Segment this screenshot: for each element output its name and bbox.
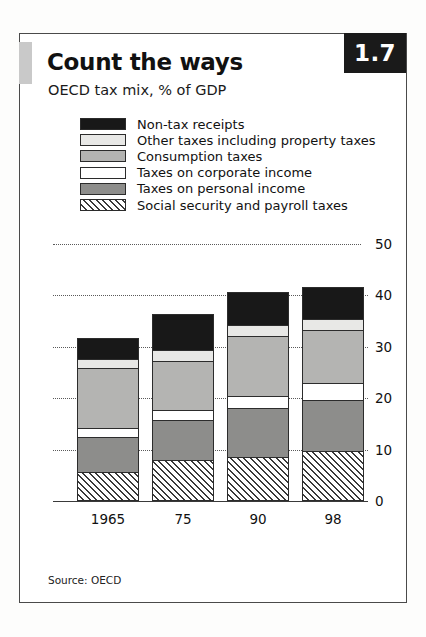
- legend-item-personal-income: Taxes on personal income: [80, 181, 400, 197]
- plot-area: [53, 244, 353, 501]
- chart-subtitle: OECD tax mix, % of GDP: [48, 82, 226, 98]
- legend-swatch-icon: [80, 199, 126, 211]
- left-edge-tab: [19, 42, 32, 84]
- bar-segment: [302, 383, 364, 400]
- legend-swatch-icon: [80, 150, 126, 162]
- bar-segment: [152, 314, 214, 350]
- legend-swatch-icon: [80, 183, 126, 195]
- bar-segment: [77, 472, 139, 501]
- source-note: Source: OECD: [48, 574, 121, 586]
- figure-frame: 1.7 Count the ways OECD tax mix, % of GD…: [19, 33, 407, 603]
- page-title: Count the ways: [47, 49, 243, 75]
- bar-segment: [227, 325, 289, 336]
- figure-page: 1.7 Count the ways OECD tax mix, % of GD…: [0, 0, 426, 637]
- y-tick-label: 10: [375, 442, 392, 458]
- bar-segment: [302, 451, 364, 501]
- bar-75[interactable]: [152, 314, 214, 501]
- x-tick-label: 98: [298, 511, 368, 527]
- bar-segment: [227, 336, 289, 396]
- x-tick-label: 1965: [73, 511, 143, 527]
- legend-item-non-tax-receipts: Non-tax receipts: [80, 116, 400, 132]
- legend-item-label: Other taxes including property taxes: [137, 133, 376, 148]
- bar-segment: [227, 292, 289, 324]
- bar-segment: [77, 437, 139, 472]
- bar-90[interactable]: [227, 292, 289, 501]
- legend-item-corporate-income: Taxes on corporate income: [80, 165, 400, 181]
- legend-swatch-icon: [80, 134, 126, 146]
- chart-legend: Non-tax receipts Other taxes including p…: [80, 116, 400, 213]
- bar-segment: [302, 330, 364, 383]
- bar-segment: [152, 361, 214, 410]
- stacked-bar-chart: 01020304050 1965759098: [20, 229, 405, 574]
- bar-segment: [302, 319, 364, 330]
- legend-swatch-icon: [80, 167, 126, 179]
- legend-swatch-icon: [80, 118, 126, 130]
- bar-98[interactable]: [302, 287, 364, 501]
- bar-segment: [227, 396, 289, 408]
- legend-item-consumption-taxes: Consumption taxes: [80, 148, 400, 164]
- legend-item-social-security: Social security and payroll taxes: [80, 197, 400, 213]
- bar-segment: [77, 428, 139, 437]
- bar-segment: [152, 350, 214, 360]
- y-tick-label: 0: [375, 493, 384, 509]
- bar-segment: [227, 457, 289, 501]
- y-tick-label: 50: [375, 236, 392, 252]
- x-axis-line: [53, 501, 368, 502]
- y-tick-label: 20: [375, 390, 392, 406]
- bar-segment: [77, 359, 139, 368]
- x-tick-label: 75: [148, 511, 218, 527]
- bar-1965[interactable]: [77, 338, 139, 501]
- bar-segment: [152, 460, 214, 501]
- y-tick-label: 40: [375, 287, 392, 303]
- bar-segment: [152, 420, 214, 461]
- bar-segment: [77, 338, 139, 359]
- legend-item-label: Non-tax receipts: [137, 117, 244, 132]
- x-tick-label: 90: [223, 511, 293, 527]
- legend-item-label: Consumption taxes: [137, 149, 262, 164]
- legend-item-label: Taxes on personal income: [137, 181, 305, 196]
- bar-segment: [152, 410, 214, 420]
- legend-item-label: Social security and payroll taxes: [137, 198, 348, 213]
- bar-segment: [227, 408, 289, 457]
- figure-number-badge: 1.7: [344, 33, 406, 73]
- bar-segment: [77, 368, 139, 427]
- bar-segment: [302, 400, 364, 451]
- bar-segment: [302, 287, 364, 319]
- legend-item-other-taxes: Other taxes including property taxes: [80, 132, 400, 148]
- legend-item-label: Taxes on corporate income: [137, 165, 312, 180]
- y-tick-label: 30: [375, 339, 392, 355]
